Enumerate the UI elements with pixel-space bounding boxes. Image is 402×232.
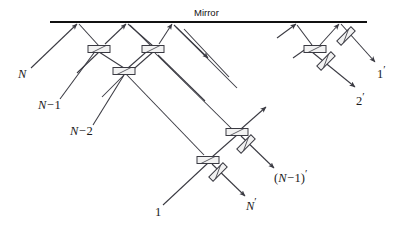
ray-right-in	[277, 24, 296, 38]
diagram-canvas	[0, 0, 402, 232]
ray-cross-d	[126, 74, 204, 155]
ray-right-a	[297, 25, 312, 45]
label-input-n-minus-1: N−1	[38, 99, 61, 112]
ray-cross-c	[184, 29, 229, 77]
label-output-n-minus-1-head: N	[278, 171, 286, 185]
ray-1-up-c	[241, 107, 266, 129]
beam-splitter-bs-top-left	[88, 46, 110, 53]
beam-splitter-bs-lower-left	[197, 157, 219, 164]
ray-cross-e	[155, 53, 233, 130]
label-output-1-prime: 1′	[377, 64, 386, 81]
beam-splitter-bs-lower-right	[226, 129, 248, 136]
ray-n2-up	[93, 75, 124, 125]
label-output-2-prime-mark: ′	[362, 90, 364, 102]
beam-splitter-bs-second-row	[113, 68, 135, 75]
ray-cross-f	[77, 52, 99, 73]
label-input-n-minus-2: N−2	[70, 125, 93, 138]
ray-n-up	[31, 24, 77, 68]
label-output-n-minus-1-prime: (N−1)′	[274, 168, 307, 185]
ray-cross-a2	[158, 55, 205, 101]
mirror-label: Mirror	[194, 8, 219, 18]
ray-1-up-b	[212, 135, 237, 157]
ray-n1-up	[60, 46, 99, 99]
optics-ray-diagram: Mirror N N−1 N−2 1 N′ (N−1)′ 2′ 1′	[0, 0, 402, 232]
ray-n-down-2	[99, 52, 124, 68]
label-input-1: 1	[155, 206, 161, 219]
label-output-n-prime-mark: ′	[254, 195, 256, 207]
mirror-plate-right-b	[317, 52, 335, 70]
ray-n2-up-c	[159, 24, 172, 44]
label-output-n-minus-1-prime-mark: ′	[305, 167, 307, 179]
ray-right-b	[320, 24, 339, 45]
label-output-2-prime: 2′	[356, 91, 365, 108]
label-output-n-minus-1-op: −	[287, 171, 295, 185]
label-input-n-minus-1-num: 1	[54, 98, 60, 112]
label-output-n-prime: N′	[246, 196, 257, 213]
ray-n-down	[79, 24, 99, 46]
ray-bundle-right	[277, 24, 375, 87]
ray-bundle-crossing	[77, 25, 237, 155]
beam-splitter-bs-top-mid	[142, 46, 164, 53]
mirror-plates	[209, 27, 355, 181]
beam-splitter-bs-right-upper	[304, 46, 326, 53]
ray-cross-b2	[176, 27, 237, 88]
label-input-n: N	[18, 68, 26, 81]
mirror-plate-lower-right	[237, 135, 255, 153]
mirror-plate-lower-left	[209, 163, 227, 181]
ray-right-c	[341, 24, 375, 62]
label-output-1-prime-mark: ′	[383, 63, 385, 75]
ray-n1-up-b	[105, 24, 126, 44]
label-input-n-minus-2-num: 2	[86, 124, 92, 138]
ray-1-up	[163, 163, 208, 205]
